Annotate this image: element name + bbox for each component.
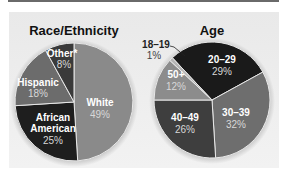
hispanic-pct: 18% (28, 88, 48, 99)
hispanic-label: Hispanic (17, 77, 59, 88)
other-label: Other* (47, 48, 78, 59)
african-american-pct: 25% (43, 135, 63, 146)
age-18-19-label: 18–19 (142, 39, 170, 50)
age-40-49-pct: 26% (175, 124, 195, 135)
race-chart-title: Race/Ethnicity (29, 23, 119, 38)
age-30-39-label: 30–39 (222, 107, 250, 118)
charts-canvas: Race/Ethnicity White 49% African America… (0, 0, 287, 183)
age-18-19-pct: 1% (147, 50, 162, 61)
age-30-39-pct: 32% (226, 119, 246, 130)
african-american-label-2: American (30, 123, 76, 134)
race-slices (15, 43, 133, 161)
race-ethnicity-pie: Race/Ethnicity White 49% African America… (10, 23, 138, 167)
age-pie: Age 20–29 29% 30–39 32% 40–49 26% 50+ 12… (142, 23, 275, 164)
age-chart-title: Age (200, 23, 225, 38)
african-american-label-1: African (36, 112, 70, 123)
age-50-plus-pct: 12% (166, 81, 186, 92)
age-20-29-label: 20–29 (208, 54, 236, 65)
other-pct: 8% (57, 59, 72, 70)
age-20-29-pct: 29% (212, 66, 232, 77)
age-40-49-label: 40–49 (171, 112, 199, 123)
white-label: White (86, 97, 114, 108)
white-pct: 49% (90, 109, 110, 120)
age-50-plus-label: 50+ (168, 69, 185, 80)
